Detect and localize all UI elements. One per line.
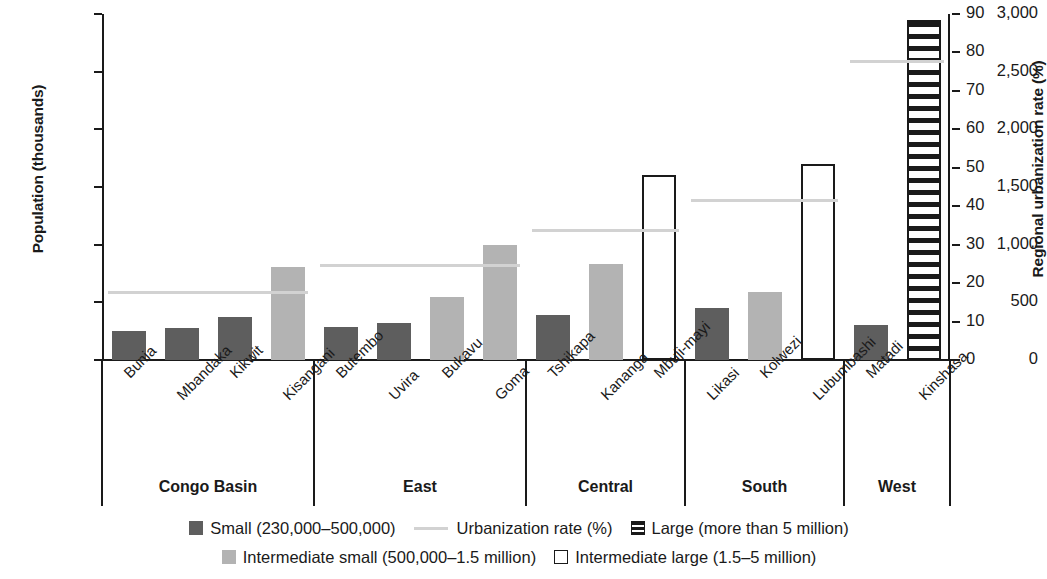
y-tick-right [952, 128, 960, 130]
y-tick-label-right: 20 [966, 272, 984, 291]
y-tick-label-left: 2,000 [952, 118, 1038, 137]
group-label-central: Central [526, 478, 685, 496]
legend-item-line: Urbanization rate (%) [414, 519, 613, 538]
legend-label: Urbanization rate (%) [457, 519, 613, 538]
y-tick-right [952, 321, 960, 323]
legend-item-small: Small (230,000–500,000) [189, 519, 395, 538]
urbanization-rate-line-central [532, 229, 679, 232]
legend-item-intlarge: Intermediate large (1.5–5 million) [554, 548, 816, 567]
legend-item-large: Large (more than 5 million) [631, 519, 849, 538]
y-tick-left [94, 13, 102, 15]
group-label-congo-basin: Congo Basin [102, 478, 314, 496]
legend-swatch-intsmall-icon [222, 550, 236, 564]
y-tick-label-right: 80 [966, 41, 984, 60]
y-tick-right [952, 282, 960, 284]
legend-swatch-line-icon [414, 527, 448, 530]
y-tick-label-left: 1,000 [952, 234, 1038, 253]
legend-label: Small (230,000–500,000) [210, 519, 395, 538]
bar-kinshasa [907, 20, 941, 360]
bar-kananga [589, 264, 623, 360]
y-tick-label-right: 10 [966, 311, 984, 330]
y-tick-label-right: 60 [966, 118, 984, 137]
legend-swatch-intlarge-icon [554, 550, 568, 564]
legend-row-2: Intermediate small (500,000–1.5 million)… [0, 544, 1038, 570]
x-label-uvira: Uvira [385, 366, 422, 403]
bar-goma [483, 245, 517, 360]
legend-item-intsmall: Intermediate small (500,000–1.5 million) [222, 548, 536, 567]
legend-swatch-large-icon [631, 521, 645, 535]
urbanization-rate-line-congo-basin [108, 291, 308, 294]
legend-swatch-small-icon [189, 521, 203, 535]
legend-label: Intermediate small (500,000–1.5 million) [243, 548, 536, 567]
legend-row-1: Small (230,000–500,000)Urbanization rate… [0, 515, 1038, 541]
group-labels: Congo BasinEastCentralSouthWest [0, 478, 1038, 508]
y-tick-right [952, 167, 960, 169]
y-tick-left [94, 186, 102, 188]
urbanization-rate-line-east [320, 264, 520, 267]
y-tick-label-right: 70 [966, 80, 984, 99]
y-tick-label-right: 40 [966, 195, 984, 214]
y-tick-right [952, 205, 960, 207]
y-tick-left [94, 301, 102, 303]
y-tick-label-left: 2,500 [952, 61, 1038, 80]
bar-mbandaka [165, 328, 199, 360]
group-label-east: East [314, 478, 526, 496]
bar-mbuji-mayi [642, 175, 676, 360]
y-tick-right [952, 90, 960, 92]
group-label-west: West [844, 478, 950, 496]
chart-legend: Small (230,000–500,000)Urbanization rate… [0, 515, 1038, 575]
urbanization-rate-line-west [850, 60, 944, 63]
y-tick-label-right: 90 [966, 3, 984, 22]
y-tick-left [94, 244, 102, 246]
x-label-likasi: Likasi [703, 364, 742, 403]
y-tick-left [94, 128, 102, 130]
y-tick-left [94, 71, 102, 73]
y-tick-label-left: 3,000 [952, 3, 1038, 22]
urbanization-rate-line-south [691, 199, 838, 202]
y-tick-right [952, 51, 960, 53]
y-tick-right [952, 244, 960, 246]
group-label-south: South [685, 478, 844, 496]
y-tick-right [952, 13, 960, 15]
x-axis-category-labels: BuniaMbandakaKikwitKisanganiButemboUvira… [0, 361, 1038, 471]
bars-layer [102, 14, 950, 360]
legend-label: Large (more than 5 million) [652, 519, 849, 538]
legend-label: Intermediate large (1.5–5 million) [575, 548, 816, 567]
y-tick-label-left: 500 [952, 291, 1038, 310]
bar-kisangani [271, 267, 305, 360]
y-tick-label-right: 50 [966, 157, 984, 176]
y-axis-title-left: Population (thousands) [29, 49, 47, 289]
y-tick-label-right: 30 [966, 234, 984, 253]
bar-lubumbashi [801, 164, 835, 360]
y-tick-label-left: 1,500 [952, 176, 1038, 195]
